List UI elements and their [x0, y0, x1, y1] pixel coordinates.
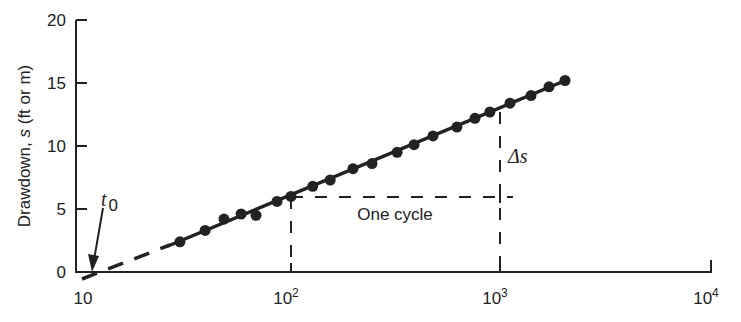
data-point: [560, 75, 571, 86]
data-point: [286, 191, 297, 202]
y-tick-10: 10: [47, 137, 66, 156]
data-point: [505, 98, 516, 109]
chart-canvas: 20 15 10 5 0 10 102 103 104 Drawdown, s …: [0, 0, 741, 322]
t0-arrow-head: [88, 254, 99, 272]
x-tick-labels: 10 102 103 104: [74, 286, 720, 308]
data-point: [251, 210, 262, 221]
data-point: [470, 113, 481, 124]
t0-label: t0: [101, 188, 118, 215]
data-point: [325, 175, 336, 186]
data-point: [484, 107, 495, 118]
axes: [75, 20, 712, 273]
data-point: [367, 158, 378, 169]
data-point: [428, 130, 439, 141]
data-point: [451, 122, 462, 133]
data-point: [307, 181, 318, 192]
delta-s-label: Δs: [507, 145, 528, 167]
x-tick-10000: 104: [693, 286, 719, 308]
x-tick-1000: 103: [482, 286, 508, 308]
data-point: [348, 163, 359, 174]
data-point: [200, 225, 211, 236]
y-tick-0: 0: [57, 263, 66, 282]
x-tick-100: 102: [273, 286, 299, 308]
x-tick-10: 10: [74, 289, 93, 308]
data-point: [219, 214, 230, 225]
one-cycle-label: One cycle: [357, 205, 433, 224]
data-point: [544, 81, 555, 92]
data-point: [174, 236, 185, 247]
t0-arrow-shaft: [94, 208, 103, 260]
y-tick-15: 15: [47, 74, 66, 93]
y-axis-label: Drawdown, s (ft or m): [15, 65, 34, 227]
data-point: [272, 196, 283, 207]
data-point: [409, 139, 420, 150]
data-point: [392, 147, 403, 158]
construction-lines: [291, 112, 513, 272]
data-point: [526, 90, 537, 101]
data-point: [236, 209, 247, 220]
y-tick-20: 20: [47, 11, 66, 30]
y-tick-labels: 20 15 10 5 0: [47, 11, 66, 282]
t0-annotation: t0: [88, 188, 118, 272]
y-tick-5: 5: [57, 200, 66, 219]
